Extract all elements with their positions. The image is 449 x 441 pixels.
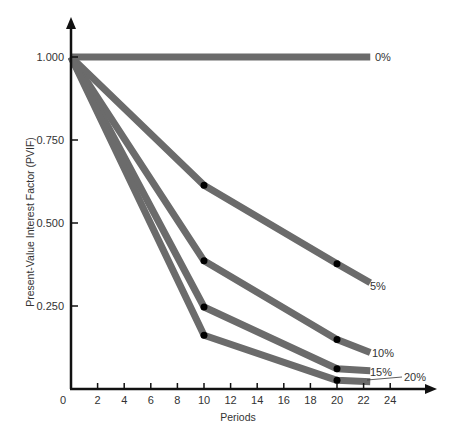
series-labels: 0%5%10%15%20% [367, 51, 426, 383]
data-point-marker [334, 260, 341, 267]
x-axis-title: Periods [220, 411, 256, 423]
y-tick-label: 1.000 [36, 51, 64, 63]
x-tick-label: 16 [278, 394, 290, 406]
data-point-marker [334, 377, 341, 384]
y-axis-title: Present-Value Interest Factor (PVIF) [24, 137, 36, 307]
x-tick-label: 10 [198, 394, 210, 406]
x-tick-label: 22 [357, 394, 369, 406]
x-tick-label: 2 [95, 394, 101, 406]
y-tick-label: 0.250 [36, 300, 64, 312]
series-label: 0% [375, 51, 391, 63]
x-axis-arrow-icon [425, 384, 437, 394]
series-line-1 [71, 57, 370, 283]
series-lines [71, 57, 370, 382]
series-label: 20% [404, 371, 426, 383]
series-label: 5% [370, 280, 386, 292]
x-tick-label: 18 [304, 394, 316, 406]
series-label: 10% [372, 347, 394, 359]
data-point-marker [201, 257, 208, 264]
x-tick-label: 0 [60, 394, 66, 406]
x-tick-label: 24 [384, 394, 396, 406]
data-point-marker [201, 303, 208, 310]
axes [66, 17, 437, 394]
pvif-line-chart: 024681012141618202224 0.2500.5000.7501.0… [0, 0, 449, 441]
x-tick-label: 6 [148, 394, 154, 406]
x-tick-label: 4 [121, 394, 127, 406]
x-tick-label: 20 [331, 394, 343, 406]
y-tick-label: 0.500 [36, 217, 64, 229]
y-axis-arrow-icon [66, 17, 76, 29]
x-tick-label: 12 [224, 394, 236, 406]
data-point-marker [334, 336, 341, 343]
series-label: 15% [370, 366, 392, 378]
data-markers [201, 182, 341, 384]
x-ticks: 024681012141618202224 [60, 383, 396, 406]
x-tick-label: 8 [174, 394, 180, 406]
data-point-marker [201, 332, 208, 339]
data-point-marker [334, 365, 341, 372]
data-point-marker [201, 182, 208, 189]
x-tick-label: 14 [251, 394, 263, 406]
y-tick-label: 0.750 [36, 134, 64, 146]
